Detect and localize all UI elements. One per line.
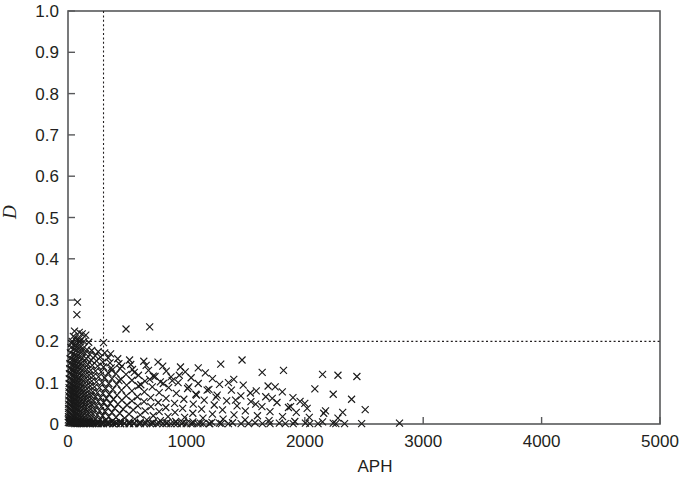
data-point-marker [118,363,125,370]
data-point-marker [159,363,166,370]
chart-canvas: 010002000300040005000 00.10.20.30.40.50.… [0,0,680,480]
y-tick-label-0.8: 0.8 [35,85,59,104]
data-point-marker [279,413,286,420]
y-tick-label-0.4: 0.4 [35,250,59,269]
data-point-marker [348,396,355,403]
data-point-marker [247,390,254,397]
x-tick-label-4000: 4000 [523,432,561,451]
reference-lines [68,11,660,424]
data-point-marker [306,414,313,421]
x-tick-label-5000: 5000 [641,432,679,451]
data-point-marker [156,408,163,415]
data-point-marker [165,384,172,391]
data-point-marker [252,419,259,426]
data-point-marker [339,409,346,416]
data-point-marker [311,385,318,392]
y-tick-label-0.9: 0.9 [35,43,59,62]
data-point-marker [232,397,239,404]
data-point-marker [147,394,154,401]
data-point-marker [330,391,337,398]
data-point-marker [237,392,244,399]
data-point-marker [179,405,186,412]
scatter-plot-figure: 010002000300040005000 00.10.20.30.40.50.… [0,0,680,480]
data-point-marker [108,409,115,416]
data-point-marker [272,383,279,390]
data-point-marker [193,392,200,399]
y-tick-label-0.2: 0.2 [35,332,59,351]
data-point-marker [150,412,157,419]
data-point-marker [209,375,216,382]
data-point-marker [289,394,296,401]
data-point-marker [362,406,369,413]
data-point-marker [322,407,329,414]
data-point-marker [217,361,224,368]
data-point-marker [141,388,148,395]
data-point-marker [334,372,341,379]
data-point-marker [137,381,144,388]
data-point-marker [155,399,162,406]
data-point-marker [160,380,167,387]
data-point-marker [265,383,272,390]
data-point-marker [109,386,116,393]
data-point-marker [135,372,142,379]
data-point-marker [171,400,178,407]
data-point-marker [73,311,80,318]
data-point-marker [266,408,273,415]
data-point-marker [190,401,197,408]
data-points [65,299,403,427]
data-point-marker [165,413,172,420]
data-point-marker [113,381,120,388]
data-point-marker [211,402,218,409]
data-point-marker [162,404,169,411]
data-point-marker [279,388,286,395]
y-axis-title: D [0,205,20,220]
plot-frame [68,11,660,424]
data-point-marker [126,356,133,363]
data-point-marker [198,406,205,413]
data-point-marker [319,371,326,378]
data-point-marker [396,420,403,427]
data-point-marker [156,389,163,396]
data-point-marker [163,368,170,375]
data-point-marker [147,403,154,410]
data-point-marker [74,299,81,306]
data-point-marker [240,382,247,389]
data-point-marker [230,411,237,418]
data-point-marker [163,395,170,402]
data-point-marker [128,397,135,404]
y-tick-label-0: 0 [50,415,59,434]
data-point-marker [234,402,241,409]
data-point-marker [280,367,287,374]
x-tick-label-0: 0 [63,432,72,451]
data-point-marker [100,339,107,346]
data-point-marker [188,374,195,381]
data-point-marker [137,411,144,418]
x-tick-label-1000: 1000 [167,432,205,451]
data-point-marker [353,373,360,380]
data-point-marker [195,380,202,387]
y-tick-label-0.1: 0.1 [35,374,59,393]
data-point-marker [195,364,202,371]
data-point-marker [123,326,130,333]
data-point-marker [242,407,249,414]
data-point-marker [146,323,153,330]
x-tick-label-3000: 3000 [404,432,442,451]
data-point-marker [189,410,196,417]
data-point-marker [131,369,138,376]
y-tick-label-0.7: 0.7 [35,126,59,145]
y-tick-label-1: 1.0 [35,2,59,21]
plot-border [68,11,660,424]
data-point-marker [114,355,121,362]
data-point-marker [149,383,156,390]
data-point-marker [120,406,127,413]
y-tick-label-0.6: 0.6 [35,167,59,186]
data-point-marker [239,356,246,363]
axis-ticks [68,11,660,424]
data-point-marker [172,409,179,416]
data-point-marker [262,393,269,400]
y-tick-label-0.3: 0.3 [35,291,59,310]
data-point-marker [219,406,226,413]
data-point-marker [134,393,141,400]
data-point-marker [209,411,216,418]
y-tick-label-0.5: 0.5 [35,209,59,228]
